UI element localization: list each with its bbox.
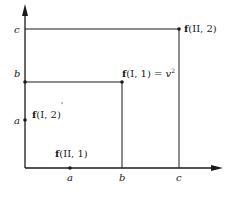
x-axis-arrow-icon (211, 165, 223, 171)
label-f-I-1: f(I, 1) = v2 (122, 67, 175, 79)
y-axis-arrow-icon (22, 4, 28, 16)
point-f-I-2 (23, 118, 27, 122)
point-f-I-1 (120, 80, 124, 84)
point-f-II-1 (68, 166, 72, 170)
x-label-a: a (67, 172, 73, 183)
x-label-c: c (176, 172, 182, 183)
label-f-I-2: f(I, 2) (32, 109, 61, 120)
x-label-b: b (119, 172, 125, 183)
nested-squares-diagram: c b a a b c f(II, 2) f(I, 1) = v2 f(I, 2… (0, 0, 237, 197)
y-label-a: a (14, 115, 20, 126)
y-label-c: c (14, 24, 20, 35)
point-b-y (23, 80, 27, 84)
label-f-II-2: f(II, 2) (184, 23, 217, 34)
y-label-b: b (14, 68, 20, 79)
label-f-II-1: f(II, 1) (55, 148, 88, 159)
point-f-II-2 (177, 27, 181, 31)
stray-dot (61, 102, 62, 103)
